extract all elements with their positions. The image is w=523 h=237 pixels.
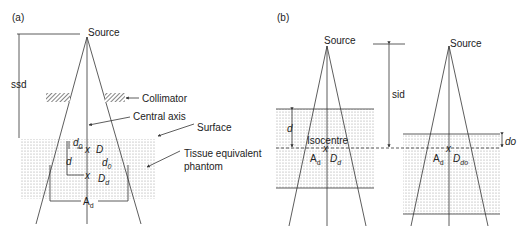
panel-b: (b) Source Source sid d Isocentre x Ad D… bbox=[276, 12, 517, 226]
collimator-left bbox=[46, 93, 70, 102]
dose-D-label: D bbox=[96, 144, 103, 155]
phantom-label-line1: Tissue equivalent bbox=[184, 148, 262, 159]
x-point-2: x bbox=[84, 170, 91, 181]
surface-pointer bbox=[158, 124, 194, 136]
source-right-label: Source bbox=[450, 38, 482, 49]
sid-label: sid bbox=[392, 89, 405, 100]
panel-b-label: (b) bbox=[277, 12, 289, 23]
panel-a: (a) ssd Source Collimator Central axis S… bbox=[11, 12, 262, 224]
phantom-right bbox=[403, 134, 500, 214]
d-label: d bbox=[66, 156, 72, 167]
x-isocentre-left: x bbox=[322, 143, 329, 154]
surface-label: Surface bbox=[197, 122, 232, 133]
collimator-right bbox=[105, 93, 125, 102]
x-point-1: x bbox=[84, 144, 91, 155]
ssd-label: ssd bbox=[11, 79, 27, 90]
collimator-label: Collimator bbox=[142, 93, 188, 104]
x-isocentre-right: x bbox=[445, 143, 452, 154]
central-axis-label: Central axis bbox=[133, 111, 186, 122]
source-left-label: Source bbox=[324, 35, 356, 46]
depth-d-label: d bbox=[287, 123, 293, 134]
source-label-a: Source bbox=[88, 27, 120, 38]
dosimetry-diagram: (a) ssd Source Collimator Central axis S… bbox=[0, 0, 523, 237]
phantom-label-line2: phantom bbox=[184, 161, 223, 172]
panel-a-label: (a) bbox=[12, 12, 24, 23]
depth-do-label: do bbox=[505, 136, 517, 147]
central-axis-pointer bbox=[89, 117, 130, 125]
